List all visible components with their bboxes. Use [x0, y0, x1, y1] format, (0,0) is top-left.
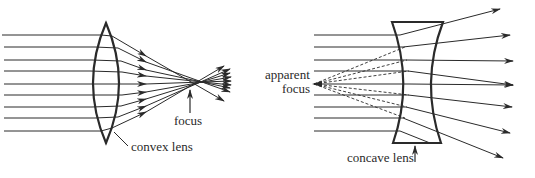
incoming-rays: [2, 35, 101, 131]
focus-label: focus: [174, 114, 202, 128]
apparent-label: apparent: [265, 68, 310, 82]
convex-lens-shape: [93, 23, 119, 143]
apparent-focus-point: [312, 81, 322, 87]
concave-lens-label: concave lens: [347, 151, 414, 165]
converging-rays: [112, 36, 231, 128]
incoming-rays: [314, 35, 409, 131]
lens-diagram: [0, 0, 535, 178]
concave-lens-shape: [392, 22, 443, 143]
convex-lens-label: convex lens: [131, 140, 193, 154]
apparent-focus-label: focus: [282, 82, 310, 96]
convex-lens-leader: [114, 132, 128, 146]
concave-lens-panel: [312, 9, 513, 162]
